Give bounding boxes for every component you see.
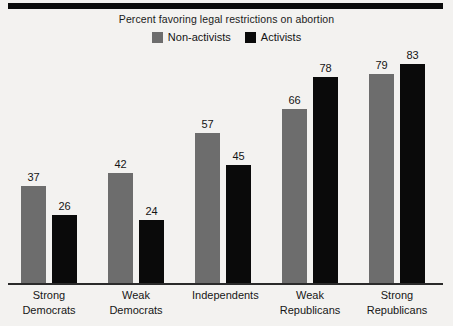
bar-rect [195, 133, 220, 284]
x-axis-line [8, 283, 443, 285]
bar-non-activists-strong-republicans[interactable]: 79 [369, 46, 394, 284]
legend-label-activists: Activists [261, 31, 301, 43]
plot-area: 37 26 42 24 57 [8, 46, 445, 284]
chart-title: Percent favoring legal restrictions on a… [0, 13, 453, 25]
x-axis-labels: Strong Democrats Weak Democrats Independ… [8, 288, 445, 326]
chart-legend: Non-activists Activists [0, 31, 453, 43]
x-axis-label-line2: Democrats [105, 303, 167, 318]
bar-value-label: 79 [375, 59, 387, 71]
bar-activists-independents[interactable]: 45 [226, 46, 251, 284]
bar-rect [400, 64, 425, 284]
bar-rect [282, 109, 307, 284]
bar-group-strong-republicans: 79 83 [366, 46, 428, 284]
bar-activists-strong-democrats[interactable]: 26 [52, 46, 77, 284]
bar-value-label: 83 [406, 49, 418, 61]
bar-rect [139, 220, 164, 284]
bar-group-strong-democrats: 37 26 [18, 46, 80, 284]
bar-non-activists-weak-republicans[interactable]: 66 [282, 46, 307, 284]
top-divider-rule [8, 3, 443, 9]
bar-rect [52, 215, 77, 284]
bar-value-label: 24 [145, 205, 157, 217]
bar-value-label: 42 [114, 158, 126, 170]
bar-group-weak-republicans: 66 78 [279, 46, 341, 284]
legend-swatch-activists-icon [245, 32, 256, 43]
legend-entry-activists: Activists [245, 31, 301, 43]
bar-non-activists-independents[interactable]: 57 [195, 46, 220, 284]
bar-non-activists-strong-democrats[interactable]: 37 [21, 46, 46, 284]
legend-label-non-activists: Non-activists [168, 31, 231, 43]
bar-rect [369, 74, 394, 284]
bar-value-label: 26 [58, 200, 70, 212]
bar-rect [108, 173, 133, 284]
chart-figure: Percent favoring legal restrictions on a… [0, 0, 453, 326]
x-axis-label-line2: Republicans [279, 303, 341, 318]
bar-value-label: 66 [288, 94, 300, 106]
x-axis-label-independents: Independents [192, 288, 254, 303]
x-axis-label-line1: Weak [105, 288, 167, 303]
x-axis-label-weak-republicans: Weak Republicans [279, 288, 341, 318]
bar-value-label: 37 [27, 171, 39, 183]
x-axis-label-line1: Independents [192, 288, 254, 303]
bar-rect [21, 186, 46, 284]
bar-non-activists-weak-democrats[interactable]: 42 [108, 46, 133, 284]
x-axis-label-strong-republicans: Strong Republicans [366, 288, 428, 318]
bar-value-label: 45 [232, 150, 244, 162]
x-axis-label-line1: Strong [366, 288, 428, 303]
x-axis-label-line1: Strong [18, 288, 80, 303]
bar-group-weak-democrats: 42 24 [105, 46, 167, 284]
bar-rect [313, 77, 338, 284]
x-axis-label-strong-democrats: Strong Democrats [18, 288, 80, 318]
bar-rect [226, 165, 251, 284]
x-axis-label-weak-democrats: Weak Democrats [105, 288, 167, 318]
bar-group-independents: 57 45 [192, 46, 254, 284]
legend-swatch-non-activists-icon [152, 32, 163, 43]
bar-activists-weak-democrats[interactable]: 24 [139, 46, 164, 284]
bar-value-label: 57 [201, 118, 213, 130]
bar-activists-strong-republicans[interactable]: 83 [400, 46, 425, 284]
legend-entry-non-activists: Non-activists [152, 31, 231, 43]
x-axis-label-line2: Republicans [366, 303, 428, 318]
bar-activists-weak-republicans[interactable]: 78 [313, 46, 338, 284]
bar-value-label: 78 [319, 62, 331, 74]
x-axis-label-line2: Democrats [18, 303, 80, 318]
x-axis-label-line1: Weak [279, 288, 341, 303]
